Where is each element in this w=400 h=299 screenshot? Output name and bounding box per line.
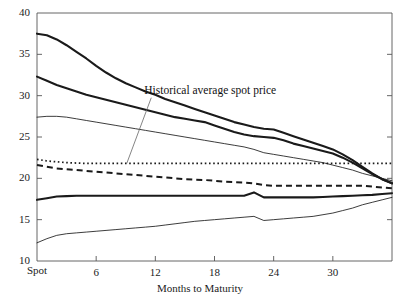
chart-line-bottom-curve-light xyxy=(37,197,392,242)
x-tick-label: 12 xyxy=(130,267,180,278)
x-tick-label: 18 xyxy=(190,267,240,278)
chart-axes xyxy=(37,13,392,261)
x-tick-label: 24 xyxy=(249,267,299,278)
x-axis-title: Months to Maturity xyxy=(0,283,400,294)
y-tick-label: 20 xyxy=(2,172,30,183)
chart-line-historical-average-spot-price xyxy=(37,159,392,163)
x-tick-label: 6 xyxy=(71,267,121,278)
y-tick-label: 25 xyxy=(2,131,30,142)
chart-line-lower-curve-heavy xyxy=(37,192,392,199)
chart-line-dashed-curve xyxy=(37,165,392,188)
y-tick-label: 40 xyxy=(2,7,30,18)
chart-figure: 10152025303540 Spot612182430 Months to M… xyxy=(0,0,400,299)
x-tick-label: 30 xyxy=(308,267,358,278)
chart-series-group xyxy=(37,34,392,243)
chart-plot-area xyxy=(0,0,400,299)
y-tick-label: 35 xyxy=(2,48,30,59)
y-tick-label: 15 xyxy=(2,214,30,225)
chart-line-upper-curve-heavy xyxy=(37,34,392,184)
x-tick-label: Spot xyxy=(12,265,62,276)
annotation-text: Historical average spot price xyxy=(144,85,276,97)
y-tick-label: 30 xyxy=(2,90,30,101)
